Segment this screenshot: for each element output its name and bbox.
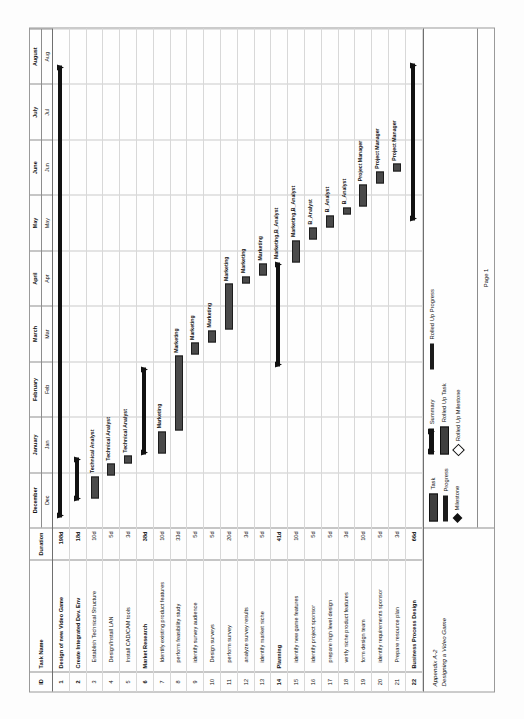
row-id: 14 [271, 671, 287, 691]
task-bar[interactable] [191, 342, 199, 354]
summary-bar[interactable] [276, 262, 280, 367]
table-row[interactable]: 1Design of new Video Game198d [53, 28, 70, 691]
caption-line1: Appendix A-2 [430, 533, 439, 686]
task-bar[interactable] [343, 207, 351, 214]
task-bar[interactable] [309, 227, 317, 239]
table-row[interactable]: 5Install CAD/CAM tools3dTechnical Analys… [120, 28, 137, 691]
gridlines [322, 28, 338, 527]
timeline-header: DecemberJanuaryFebruaryMarchAprilMayJune… [30, 28, 52, 527]
legend-summary-label: Summary [429, 399, 435, 424]
sheet-footer: Appendix A-2 Designing a Video Game Task [423, 28, 494, 691]
table-row[interactable]: 14Planning41dMarketing,B_Analyst [271, 28, 288, 691]
row-id: 22 [406, 671, 422, 691]
resource-label: B_Analyst [307, 199, 313, 224]
table-row[interactable]: 16identify project sponsor5dB_Analyst [305, 28, 322, 691]
legend-rolled-up-milestone-label: Rolled Up Milestone [455, 389, 461, 441]
row-duration: 5d [103, 527, 119, 559]
table-row[interactable]: 21Prepare resource plan3dProject Manager [389, 28, 406, 691]
table-row[interactable]: 15identify new game features10dMarketing… [288, 28, 305, 691]
legend-task: Task [429, 468, 438, 521]
gantt-cell [406, 28, 422, 527]
table-row[interactable]: 11perform survey20dMarketing [221, 28, 238, 691]
table-row[interactable]: 18verify niche product features3dB_Analy… [339, 28, 356, 691]
task-bar[interactable] [292, 240, 300, 262]
table-row[interactable]: 12analyze survey results3dMarketing [238, 28, 255, 691]
gantt-cell: Project Manager [389, 28, 405, 527]
table-row[interactable]: 7Identify existing product features10dMa… [154, 28, 171, 691]
timeline-month-march: March [30, 305, 41, 360]
task-bar[interactable] [326, 215, 334, 227]
row-duration: 5d [187, 527, 203, 559]
row-duration: 10d [288, 527, 304, 559]
gantt-cell: Technical Analyst [103, 28, 119, 527]
row-id: 12 [238, 671, 254, 691]
table-row[interactable]: 10Design surveys5dMarketing [204, 28, 221, 691]
progress-bar-icon [443, 495, 448, 521]
row-task-name: form design team [355, 559, 371, 671]
task-bar[interactable] [158, 431, 166, 453]
row-id: 15 [288, 671, 304, 691]
task-bar[interactable] [124, 455, 132, 462]
task-bar[interactable] [91, 476, 99, 498]
task-bar[interactable] [376, 171, 384, 183]
row-duration: 5d [204, 527, 220, 559]
task-bar[interactable] [175, 355, 183, 430]
task-bar[interactable] [225, 284, 233, 330]
gantt-cell [70, 28, 86, 527]
milestone-diamond-icon [452, 513, 462, 523]
task-bar[interactable] [107, 463, 115, 475]
row-id: 20 [372, 671, 388, 691]
table-row[interactable]: 19form design team10dProject Manager [355, 28, 372, 691]
row-id: 7 [154, 671, 170, 691]
timeline-abbr-dec: Dec [42, 472, 53, 527]
summary-bar[interactable] [75, 457, 79, 499]
row-id: 16 [305, 671, 321, 691]
footer-caption: Appendix A-2 Designing a Video Game [424, 527, 494, 691]
summary-bar[interactable] [58, 65, 62, 517]
table-row[interactable]: 8perform feasibility study33dMarketing [171, 28, 188, 691]
row-duration: 3d [238, 527, 254, 559]
row-task-name: Planning [271, 559, 287, 671]
table-row[interactable]: 13identify market niche5dMarketing [255, 28, 272, 691]
timeline-month-july: July [30, 84, 41, 139]
resource-label: Marketing,B_Analyst [290, 185, 296, 236]
gantt-cell: B_Analyst [322, 28, 338, 527]
task-bar[interactable] [208, 330, 216, 342]
row-id: 6 [137, 671, 153, 691]
row-task-name: identify survey audience [187, 559, 203, 671]
table-row[interactable]: 9identify survey audience5dMarketing [187, 28, 204, 691]
summary-bar[interactable] [142, 367, 146, 454]
table-row[interactable]: 4Design/Install LAN5dTechnical Analyst [103, 28, 120, 691]
table-row[interactable]: 6Market Research38d [137, 28, 154, 691]
gantt-cell: B_Analyst [339, 28, 355, 527]
table-row[interactable]: 3Establish Technical Structure10dTechnic… [87, 28, 104, 691]
screenshot-page: ID Task Name Duration DecemberJanuaryFeb… [0, 0, 524, 719]
task-bar[interactable] [259, 263, 267, 275]
row-task-name: Business Process Design [406, 559, 422, 671]
task-bar[interactable] [359, 184, 367, 206]
row-id: 17 [322, 671, 338, 691]
row-task-name: perform feasibility study [171, 559, 187, 671]
row-id: 3 [87, 671, 103, 691]
gantt-cell: Marketing [255, 28, 271, 527]
row-task-name: Market Research [137, 559, 153, 671]
row-id: 4 [103, 671, 119, 691]
table-row[interactable]: 22Business Process Design66d [406, 28, 423, 691]
legend-progress: Progress [443, 468, 449, 521]
table-row[interactable]: 20identify requirements sponsor5dProject… [372, 28, 389, 691]
gridlines [204, 28, 220, 527]
row-task-name: Design/Install LAN [103, 559, 119, 671]
summary-bar[interactable] [411, 63, 415, 220]
table-row[interactable]: 2Create Integrated Dev. Env18d [70, 28, 87, 691]
task-bar[interactable] [242, 276, 250, 283]
gantt-cell [53, 28, 69, 527]
row-duration: 5d [255, 527, 271, 559]
table-header: ID Task Name Duration DecemberJanuaryFeb… [30, 28, 53, 691]
resource-label: Marketing [189, 315, 195, 340]
resource-label: Technical Analyst [89, 429, 95, 473]
gantt-cell: Project Manager [372, 28, 388, 527]
task-bar[interactable] [393, 163, 401, 170]
gridlines [255, 28, 271, 527]
table-row[interactable]: 17prepare high level design5dB_Analyst [322, 28, 339, 691]
gridlines [187, 28, 203, 527]
